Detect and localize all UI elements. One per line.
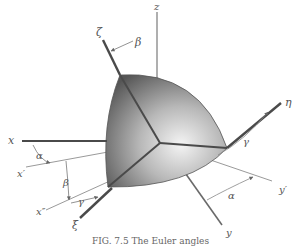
label-xi: ξ <box>72 219 79 232</box>
label-z: z <box>153 1 160 12</box>
gamma-xi-arrow <box>71 197 98 203</box>
label-x-double-prime: x″ <box>36 206 46 217</box>
label-x: x <box>8 134 15 147</box>
euler-angles-diagram: z ζ β η x α x′ β x″ γ ξ γ y′ α y <box>0 0 301 247</box>
label-x-prime: x′ <box>17 168 26 179</box>
beta-z-arrow <box>111 41 133 51</box>
figure-caption: FIG. 7.5 The Euler angles <box>0 236 301 246</box>
eta-axis <box>227 103 281 148</box>
label-gamma-eta: γ <box>243 136 249 147</box>
zeta-axis <box>103 40 120 75</box>
euler-angles-figure: z ζ β η x α x′ β x″ γ ξ γ y′ α y FIG. 7.… <box>0 0 301 247</box>
rigid-body-shape <box>106 75 227 187</box>
label-y-prime: y′ <box>278 184 288 195</box>
label-beta-z: β <box>134 36 141 49</box>
label-gamma-xi: γ <box>78 196 84 207</box>
label-zeta: ζ <box>96 26 103 39</box>
label-alpha-y: α <box>228 190 235 201</box>
label-alpha-x: α <box>36 150 43 161</box>
label-beta-x: β <box>62 177 69 188</box>
label-eta: η <box>285 96 292 109</box>
